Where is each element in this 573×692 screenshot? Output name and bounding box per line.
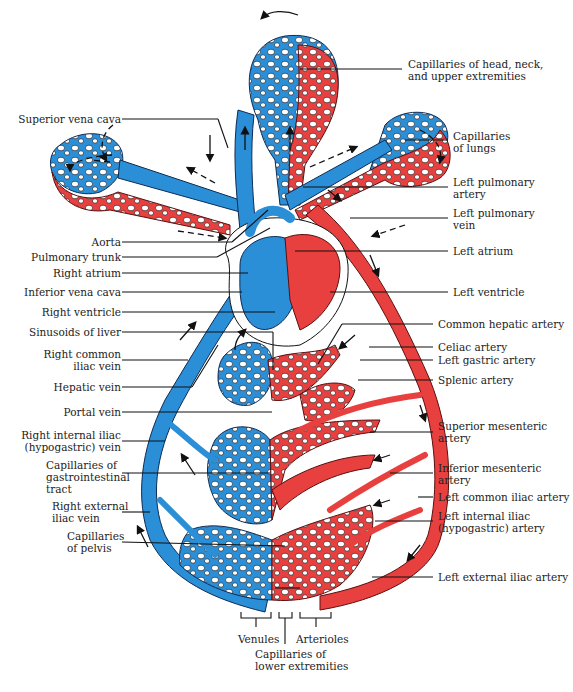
label-line: Capillaries (453, 130, 510, 142)
label-right-atrium: Right atrium (53, 267, 121, 279)
label-line: tract (46, 483, 130, 495)
gi-tract-capillary-bed (208, 420, 381, 524)
label-venules: Venules (238, 633, 279, 645)
label-line: Capillaries (67, 530, 124, 542)
label-left-common-iliac-artery: Left common iliac artery (438, 491, 569, 503)
label-line: Superior mesenteric (438, 420, 547, 432)
label-line: Left internal iliac (438, 510, 545, 522)
label-line: Capillaries of head, neck, (408, 58, 543, 70)
label-left-ventricle: Left ventricle (453, 286, 525, 298)
label-common-hepatic-artery: Common hepatic artery (438, 318, 564, 330)
label-line: (hypogastric) artery (438, 522, 545, 534)
label-line: artery (438, 474, 541, 486)
label-splenic-artery: Splenic artery (438, 374, 514, 386)
left-lung-capillary-bed (50, 134, 240, 235)
label-line: Right external (52, 500, 128, 512)
label-left-internal-iliac-artery: Left internal iliac (hypogastric) artery (438, 510, 545, 534)
label-capillaries-lower-extremities: Capillaries of lower extremities (255, 648, 348, 672)
label-line: Right common (43, 348, 121, 360)
label-line: vein (453, 219, 535, 231)
label-pulmonary-trunk: Pulmonary trunk (31, 251, 121, 263)
label-right-common-iliac-vein: Right common iliac vein (43, 348, 121, 372)
label-line: Capillaries of (46, 459, 130, 471)
label-left-pulmonary-artery: Left pulmonary artery (453, 176, 535, 200)
label-hepatic-vein: Hepatic vein (54, 381, 121, 393)
label-superior-vena-cava: Superior vena cava (18, 113, 121, 125)
label-line: of lungs (453, 142, 510, 154)
label-line: Inferior mesenteric (438, 462, 541, 474)
label-line: lower extremities (255, 660, 348, 672)
label-capillaries-head-neck: Capillaries of head, neck, and upper ext… (408, 58, 543, 82)
label-capillaries-of-lungs: Capillaries of lungs (453, 130, 510, 154)
label-capillaries-of-pelvis: Capillaries of pelvis (67, 530, 124, 554)
label-portal-vein: Portal vein (64, 406, 121, 418)
label-inferior-vena-cava: Inferior vena cava (24, 286, 121, 298)
label-line: iliac vein (52, 512, 128, 524)
label-line: Right internal iliac (21, 429, 121, 441)
label-line: and upper extremities (408, 70, 543, 82)
label-left-external-iliac-artery: Left external iliac artery (438, 571, 568, 583)
label-line: Left pulmonary (453, 207, 535, 219)
circulatory-diagram: Superior vena cava Aorta Pulmonary trunk… (0, 0, 573, 692)
label-line: (hypogastric) vein (21, 441, 121, 453)
label-arterioles: Arterioles (296, 633, 349, 645)
label-capillaries-gi-tract: Capillaries of gastrointestinal tract (46, 459, 130, 495)
label-right-external-iliac-vein: Right external iliac vein (52, 500, 128, 524)
label-sinusoids-of-liver: Sinusoids of liver (29, 326, 121, 338)
label-aorta: Aorta (92, 236, 121, 248)
label-line: artery (438, 432, 547, 444)
label-superior-mesenteric-artery: Superior mesenteric artery (438, 420, 547, 444)
label-celiac-artery: Celiac artery (438, 341, 507, 353)
label-left-pulmonary-vein: Left pulmonary vein (453, 207, 535, 231)
label-left-atrium: Left atrium (453, 245, 513, 257)
label-line: Capillaries of (255, 648, 348, 660)
label-right-ventricle: Right ventricle (42, 306, 121, 318)
label-line: Left pulmonary (453, 176, 535, 188)
label-line: of pelvis (67, 542, 124, 554)
label-right-internal-iliac-vein: Right internal iliac (hypogastric) vein (21, 429, 121, 453)
label-left-gastric-artery: Left gastric artery (438, 354, 535, 366)
label-line: artery (453, 188, 535, 200)
label-line: iliac vein (43, 360, 121, 372)
label-line: gastrointestinal (46, 471, 130, 483)
label-inferior-mesenteric-artery: Inferior mesenteric artery (438, 462, 541, 486)
